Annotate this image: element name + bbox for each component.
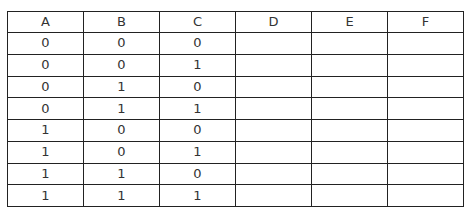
cell-f: [388, 163, 464, 185]
cell-e: [312, 98, 388, 120]
table-row: 1 0 0: [8, 120, 464, 142]
cell-a: 1: [8, 185, 84, 207]
cell-c: 1: [160, 185, 236, 207]
cell-d: [236, 185, 312, 207]
header-row: A B C D E F: [8, 12, 464, 33]
cell-b: 0: [84, 120, 160, 142]
cell-b: 0: [84, 33, 160, 55]
cell-e: [312, 33, 388, 55]
cell-a: 1: [8, 163, 84, 185]
cell-e: [312, 185, 388, 207]
table-row: 1 1 0: [8, 163, 464, 185]
table-row: 0 0 0: [8, 33, 464, 55]
cell-d: [236, 54, 312, 76]
table-row: 0 1 0: [8, 76, 464, 98]
cell-f: [388, 120, 464, 142]
cell-f: [388, 141, 464, 163]
cell-d: [236, 163, 312, 185]
cell-c: 0: [160, 120, 236, 142]
cell-a: 0: [8, 33, 84, 55]
cell-d: [236, 33, 312, 55]
cell-f: [388, 54, 464, 76]
cell-a: 0: [8, 54, 84, 76]
cell-f: [388, 76, 464, 98]
cell-b: 1: [84, 163, 160, 185]
cell-e: [312, 141, 388, 163]
cell-a: 1: [8, 120, 84, 142]
cell-b: 0: [84, 54, 160, 76]
cell-f: [388, 33, 464, 55]
table-row: 1 1 1: [8, 185, 464, 207]
cell-e: [312, 120, 388, 142]
cell-d: [236, 141, 312, 163]
cell-c: 0: [160, 33, 236, 55]
header-d: D: [236, 12, 312, 33]
cell-f: [388, 185, 464, 207]
cell-a: 1: [8, 141, 84, 163]
header-a: A: [8, 12, 84, 33]
header-f: F: [388, 12, 464, 33]
cell-e: [312, 76, 388, 98]
cell-c: 1: [160, 98, 236, 120]
header-b: B: [84, 12, 160, 33]
cell-b: 1: [84, 185, 160, 207]
cell-c: 0: [160, 76, 236, 98]
cell-d: [236, 98, 312, 120]
cell-d: [236, 120, 312, 142]
cell-c: 1: [160, 54, 236, 76]
cell-e: [312, 163, 388, 185]
cell-e: [312, 54, 388, 76]
table-row: 0 1 1: [8, 98, 464, 120]
cell-c: 1: [160, 141, 236, 163]
cell-b: 1: [84, 76, 160, 98]
header-c: C: [160, 12, 236, 33]
truth-table: A B C D E F 0 0 0 0 0 1 0 1 0: [7, 11, 464, 207]
cell-b: 0: [84, 141, 160, 163]
table-row: 1 0 1: [8, 141, 464, 163]
cell-a: 0: [8, 98, 84, 120]
cell-b: 1: [84, 98, 160, 120]
table-row: 0 0 1: [8, 54, 464, 76]
cell-f: [388, 98, 464, 120]
cell-c: 0: [160, 163, 236, 185]
cell-a: 0: [8, 76, 84, 98]
header-e: E: [312, 12, 388, 33]
cell-d: [236, 76, 312, 98]
